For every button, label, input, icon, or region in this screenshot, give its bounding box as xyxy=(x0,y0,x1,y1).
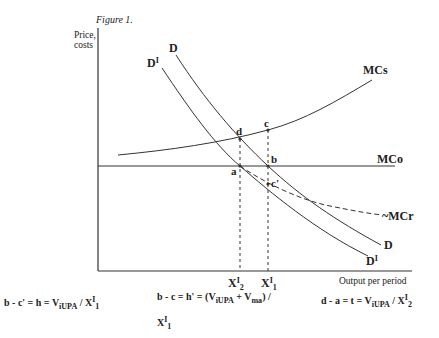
y-axis-label-line1: Price, xyxy=(74,30,96,40)
point-d-marker xyxy=(238,137,241,140)
formula-h-prime-line2: XI1 xyxy=(157,315,171,331)
di-curve-label-bottom: DI xyxy=(366,254,378,269)
mco-curve-label: MCo xyxy=(377,152,403,167)
point-cprime-marker xyxy=(266,182,269,185)
x2-tick-label: XI2 xyxy=(228,276,244,292)
formula-h: b - c' = h = ViUPA / XI1 xyxy=(4,295,99,311)
y-axis-label-line2: costs xyxy=(74,40,93,50)
figure-title: Figure 1. xyxy=(96,14,133,25)
d-curve xyxy=(176,55,381,245)
diagram-canvas xyxy=(0,0,439,338)
d-curve-label-bottom: D xyxy=(384,238,393,253)
d-curve-label-top: D xyxy=(169,41,178,56)
mcs-curve-label: MCs xyxy=(363,63,388,78)
formula-t: d - a = t = ViUPA / XI2 xyxy=(321,293,412,309)
point-b-marker xyxy=(266,164,269,167)
x-axis-label: Output per period xyxy=(339,276,407,286)
point-c-label: c xyxy=(264,117,269,129)
di-curve xyxy=(162,68,368,256)
point-a-marker xyxy=(238,164,241,167)
formula-h-prime: b - c = h' = (ViUPA + Vma) / xyxy=(157,291,271,305)
point-a-label: a xyxy=(231,165,237,177)
point-d-label: d xyxy=(236,125,242,137)
x1-tick-label: XI1 xyxy=(261,276,277,292)
point-b-label: b xyxy=(271,153,277,165)
point-cprime-label: c' xyxy=(271,177,279,189)
mcr-curve xyxy=(240,166,382,215)
mcr-curve-label: ~MCr xyxy=(382,209,414,224)
di-curve-label-top: DI xyxy=(147,56,159,71)
